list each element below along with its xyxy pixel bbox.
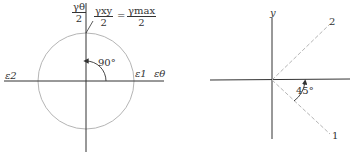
gxy-den: 2	[100, 17, 106, 28]
gxy-num: γxy	[94, 6, 113, 17]
diagram-canvas	[0, 0, 350, 153]
epsilon-theta-label: εθ	[154, 69, 165, 79]
point-label-gmax: γmax 2	[127, 6, 156, 28]
gmax-den: 2	[138, 17, 144, 28]
angle-45-label: 45°	[296, 86, 314, 96]
ordinate-label-den: 2	[76, 13, 82, 24]
direction-2-line	[272, 24, 330, 80]
epsilon-2-label: ε2	[5, 71, 17, 81]
x-axis	[210, 79, 350, 80]
direction-1-label: 1	[332, 131, 338, 141]
equals-sign: =	[117, 11, 125, 21]
angle-90-label: 90°	[98, 58, 116, 68]
point-label-gxy: γxy 2	[94, 6, 113, 28]
ordinate-label-num: γθ	[72, 2, 86, 13]
principal-directions-diagram	[210, 18, 350, 139]
direction-2-label: 2	[329, 17, 335, 27]
gmax-num: γmax	[127, 6, 156, 17]
epsilon-1-label: ε1	[135, 69, 147, 79]
y-axis-label: y	[270, 8, 276, 18]
ordinate-label: γθ 2	[72, 2, 86, 24]
leader-line	[86, 21, 93, 33]
